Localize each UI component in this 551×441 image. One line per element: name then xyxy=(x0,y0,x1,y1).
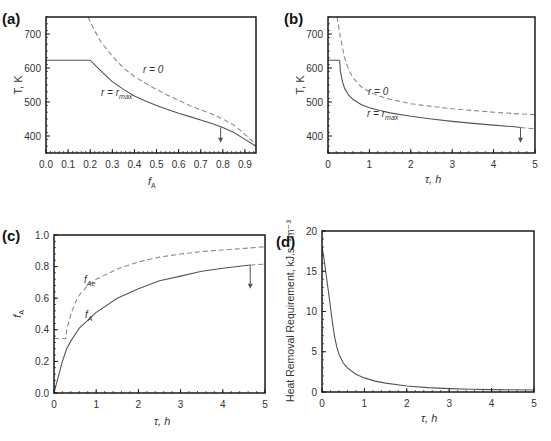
y-tick-label: 600 xyxy=(24,63,41,74)
panel-b-anno-r0: r = 0 xyxy=(368,86,389,97)
panel-a-ticks: 0.00.10.20.30.40.50.60.70.80.94005006007… xyxy=(24,17,253,170)
y-tick-label: 0.8 xyxy=(35,261,49,272)
x-tick-label: 5 xyxy=(532,159,538,170)
x-tick-label: 3 xyxy=(449,159,455,170)
panel-a-ylabel: T, K xyxy=(12,75,24,95)
panel-d-frame xyxy=(322,231,534,392)
panel-a-curves xyxy=(46,17,256,146)
panel-b-ylabel: T, K xyxy=(294,75,306,95)
y-tick-label: 5 xyxy=(311,346,317,357)
y-tick-label: 0.0 xyxy=(35,388,49,399)
x-tick-label: 2 xyxy=(136,399,142,410)
x-tick-label: 0.6 xyxy=(172,159,186,170)
x-tick-label: 0.5 xyxy=(150,159,164,170)
x-tick-label: 0.2 xyxy=(83,159,97,170)
arrowhead-icon xyxy=(248,284,253,289)
arrowhead-icon xyxy=(518,138,523,143)
series-f-ae xyxy=(54,247,265,339)
panel-c-ylabel: fA xyxy=(11,310,25,318)
panel-a-tag: (a) xyxy=(2,10,20,27)
x-tick-label: 4 xyxy=(491,159,497,170)
panel-c-tag: (c) xyxy=(2,227,20,244)
y-tick-label: 0.6 xyxy=(35,293,49,304)
y-tick-label: 1.0 xyxy=(35,230,49,241)
panel-d-ylabel: Heat Removal Requirement, kJ.s⁻¹m⁻³ xyxy=(284,220,296,402)
y-tick-label: 700 xyxy=(24,29,41,40)
x-tick-label: 4 xyxy=(220,399,226,410)
series-r-r-max xyxy=(328,60,521,127)
x-tick-label: 5 xyxy=(262,399,268,410)
y-tick-label: 500 xyxy=(306,97,323,108)
y-tick-label: 600 xyxy=(306,63,323,74)
series-r-0 xyxy=(88,17,256,145)
x-tick-label: 0 xyxy=(325,159,331,170)
series-f-ae-tail- xyxy=(250,264,265,265)
panel-a-anno-r0: r = 0 xyxy=(143,64,164,75)
x-tick-label: 3 xyxy=(446,398,452,409)
y-tick-label: 20 xyxy=(306,226,318,237)
x-tick-label: 1 xyxy=(362,398,368,409)
figure: (a) 0.00.10.20.30.40.50.60.70.80.9400500… xyxy=(0,0,551,441)
x-tick-label: 0.9 xyxy=(238,159,252,170)
y-tick-label: 400 xyxy=(306,131,323,142)
x-tick-label: 2 xyxy=(408,159,414,170)
x-tick-label: 0.4 xyxy=(127,159,141,170)
x-tick-label: 0 xyxy=(319,398,325,409)
panel-a-anno-rmax: r = rmax xyxy=(101,87,133,100)
x-tick-label: 3 xyxy=(178,399,184,410)
y-tick-label: 400 xyxy=(24,131,41,142)
panel-c-anno-fa: fA xyxy=(85,309,93,322)
series-r-0-tail- xyxy=(521,128,536,129)
panel-d-curves xyxy=(322,247,534,390)
x-tick-label: 0.7 xyxy=(194,159,208,170)
arrowhead-icon xyxy=(218,138,223,143)
y-tick-label: 0 xyxy=(311,387,317,398)
x-tick-label: 2 xyxy=(404,398,410,409)
y-tick-label: 0.2 xyxy=(35,356,49,367)
x-tick-label: 0.3 xyxy=(105,159,119,170)
panel-b-curves xyxy=(328,17,535,143)
x-tick-label: 1 xyxy=(93,399,99,410)
panel-c-xlabel: τ, h xyxy=(154,415,170,427)
y-tick-label: 10 xyxy=(306,306,318,317)
panel-d-ticks: 01234505101520 xyxy=(306,226,537,410)
y-tick-label: 0.4 xyxy=(35,324,49,335)
x-tick-label: 0 xyxy=(51,399,57,410)
panel-c: (c) 0123450.00.20.40.60.81.0 fA τ, h fAe… xyxy=(2,227,268,427)
panel-b-ticks: 012345400500600700 xyxy=(306,17,538,170)
y-tick-label: 500 xyxy=(24,97,41,108)
panel-a-xlabel: fA xyxy=(148,175,156,189)
panel-d: (d) 01234505101520 Heat Removal Requirem… xyxy=(276,220,537,424)
x-tick-label: 0.0 xyxy=(39,159,53,170)
panel-b-xlabel: τ, h xyxy=(425,173,441,185)
x-tick-label: 4 xyxy=(489,398,495,409)
panel-c-anno-fae: fAe xyxy=(84,274,95,287)
y-tick-label: 15 xyxy=(306,266,318,277)
x-tick-label: 1 xyxy=(367,159,373,170)
panel-b-tag: (b) xyxy=(284,10,303,27)
series-r-0 xyxy=(337,17,535,115)
panel-a-frame xyxy=(46,17,256,153)
x-tick-label: 0.1 xyxy=(61,159,75,170)
panel-a: (a) 0.00.10.20.30.40.50.60.70.80.9400500… xyxy=(2,10,256,189)
panel-b: (b) 012345400500600700 T, K τ, h r = 0 r… xyxy=(284,10,538,185)
x-tick-label: 0.8 xyxy=(216,159,230,170)
panel-c-ticks: 0123450.00.20.40.60.81.0 xyxy=(35,230,268,411)
panel-b-anno-rmax: r = rmax xyxy=(367,108,399,121)
x-tick-label: 5 xyxy=(531,398,537,409)
panel-d-xlabel: τ, h xyxy=(421,412,437,424)
y-tick-label: 700 xyxy=(306,29,323,40)
series-heat-removal xyxy=(322,247,534,390)
